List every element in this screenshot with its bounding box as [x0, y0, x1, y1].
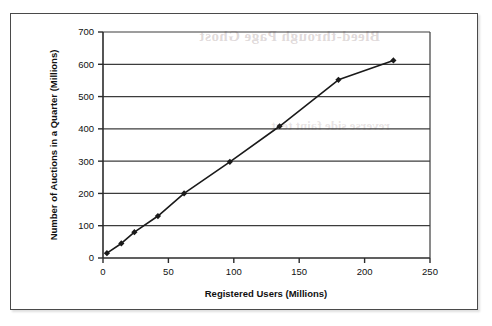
- y-tick-label: 500: [78, 91, 94, 102]
- y-tick-label: 0: [89, 252, 94, 263]
- y-tick-label: 600: [78, 59, 94, 70]
- gridlines-group: [103, 32, 430, 226]
- line-chart-plot: 0100200300400500600700 050100150200250 R…: [0, 0, 492, 326]
- x-tick-label: 100: [226, 266, 242, 277]
- y-tick-label: 400: [78, 123, 94, 134]
- data-point-markers-group: [104, 57, 397, 256]
- y-tick-label: 700: [78, 26, 94, 37]
- data-point-marker: [390, 57, 396, 63]
- data-series-line: [107, 60, 393, 253]
- x-tick-label: 50: [163, 266, 174, 277]
- x-axis-title: Registered Users (Millions): [205, 288, 327, 299]
- x-tick-label: 250: [422, 266, 438, 277]
- x-tick-label: 0: [100, 266, 105, 277]
- y-tick-label: 100: [78, 220, 94, 231]
- x-tick-label: 200: [357, 266, 373, 277]
- y-tick-label: 300: [78, 156, 94, 167]
- y-axis-title: Number of Auctions in a Quarter (Million…: [48, 50, 59, 241]
- y-tick-label: 200: [78, 188, 94, 199]
- x-tick-labels-group: 050100150200250: [100, 266, 438, 277]
- y-tick-labels-group: 0100200300400500600700: [78, 26, 94, 263]
- chart-figure: Bleed-through Page Ghost reverse side fa…: [0, 0, 492, 326]
- x-tick-label: 150: [291, 266, 307, 277]
